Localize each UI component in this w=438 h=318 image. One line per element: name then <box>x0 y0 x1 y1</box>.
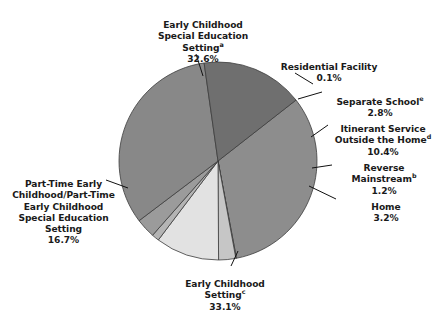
slice-label-ec-setting-value: 33.1% <box>155 302 295 313</box>
leader-line-home <box>309 186 336 199</box>
slice-label-residential-text: Residential Facility <box>281 62 378 72</box>
slice-label-ecse: Early ChildhoodSpecial EducationSettinga… <box>128 9 278 76</box>
slice-label-home-text: Home <box>371 202 400 212</box>
slice-label-residential-value: 0.1% <box>268 73 390 84</box>
slice-label-part-time-value: 16.7% <box>5 235 122 246</box>
slice-label-ec-setting: Early ChildhoodSettingc 33.1% <box>155 268 295 318</box>
slice-label-part-time: Part-Time EarlyChildhood/Part-TimeEarly … <box>5 168 122 258</box>
slice-label-ecse-text: Early ChildhoodSpecial EducationSettinga <box>158 20 248 52</box>
slice-label-ecse-value: 32.6% <box>128 54 278 65</box>
slice-label-part-time-text: Part-Time EarlyChildhood/Part-TimeEarly … <box>12 179 115 234</box>
slice-label-itinerant-text: Itinerant ServiceOutside the Homed <box>335 124 431 145</box>
slice-label-home: Home 3.2% <box>338 191 434 236</box>
slice-label-home-value: 3.2% <box>338 213 434 224</box>
slice-label-separate-school-text: Separate Schoole <box>336 97 423 107</box>
slice-label-ec-setting-text: Early ChildhoodSettingc <box>185 279 265 300</box>
slice-label-reverse-mainstream-text: ReverseMainstreamb <box>352 163 417 184</box>
pie-chart: Early ChildhoodSpecial EducationSettinga… <box>0 0 438 318</box>
